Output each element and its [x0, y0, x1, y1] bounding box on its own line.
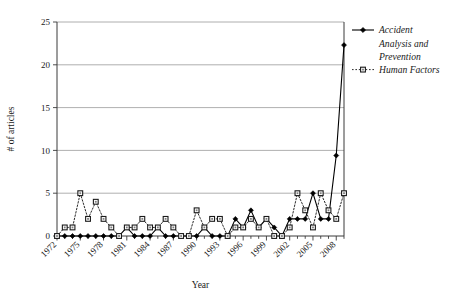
data-point-marker-center — [79, 192, 81, 194]
data-point-marker-center — [172, 227, 174, 229]
line-chart: 0510152025197219751978198119841987199019… — [0, 0, 460, 295]
y-tick-label: 15 — [41, 103, 51, 113]
data-point-marker — [248, 208, 253, 213]
x-tick-label: 2008 — [318, 239, 338, 259]
data-point-marker — [140, 234, 145, 239]
x-tick-label: 2005 — [295, 239, 315, 259]
legend-label-human-factors: Human Factors — [378, 64, 440, 75]
data-point-marker-center — [312, 227, 314, 229]
data-point-marker-center — [335, 218, 337, 220]
y-tick-label: 10 — [41, 146, 51, 156]
data-point-marker — [326, 216, 331, 221]
x-tick-label: 1990 — [178, 239, 198, 259]
data-point-marker-center — [250, 218, 252, 220]
x-tick-label: 1987 — [155, 239, 175, 259]
y-axis-title: # of articles — [6, 106, 16, 151]
data-point-marker-center — [126, 227, 128, 229]
series-line-1 — [57, 193, 344, 236]
legend-label-accident: Prevention — [378, 51, 421, 62]
data-point-marker — [62, 234, 67, 239]
y-tick-label: 5 — [46, 188, 51, 198]
legend-label-accident: Analysis and — [378, 38, 429, 49]
data-point-marker-center — [227, 235, 229, 237]
data-point-marker-center — [72, 227, 74, 229]
data-point-marker-center — [95, 201, 97, 203]
data-point-marker — [93, 234, 98, 239]
data-point-marker — [171, 234, 176, 239]
data-point-marker-center — [134, 227, 136, 229]
x-tick-label: 1984 — [132, 239, 152, 259]
data-point-marker — [342, 43, 347, 48]
data-point-marker — [295, 216, 300, 221]
legend-label-accident: Accident — [378, 24, 413, 35]
data-point-marker — [109, 234, 114, 239]
y-tick-label: 25 — [41, 17, 51, 27]
x-tick-label: 2002 — [271, 239, 291, 259]
data-point-marker — [78, 234, 83, 239]
data-point-marker-center — [103, 218, 105, 220]
data-point-marker-center — [328, 209, 330, 211]
data-point-marker-center — [235, 227, 237, 229]
x-tick-label: 1981 — [108, 239, 128, 259]
data-point-marker-center — [266, 218, 268, 220]
legend-marker-diamond — [360, 27, 365, 32]
data-point-marker-center — [87, 218, 89, 220]
data-point-marker-center — [273, 235, 275, 237]
x-tick-label: 1978 — [85, 239, 105, 259]
data-point-marker — [310, 191, 315, 196]
data-point-marker-center — [258, 227, 260, 229]
series-line-0 — [57, 45, 344, 236]
data-point-marker-center — [141, 218, 143, 220]
x-tick-label: 1996 — [225, 239, 245, 259]
data-point-marker — [318, 216, 323, 221]
data-point-marker-center — [157, 227, 159, 229]
x-tick-label: 1993 — [202, 239, 222, 259]
x-tick-label: 1972 — [39, 239, 59, 259]
legend-marker-square-center — [362, 69, 364, 71]
data-point-marker-center — [297, 192, 299, 194]
chart-container: 0510152025197219751978198119841987199019… — [0, 0, 460, 295]
data-point-marker — [101, 234, 106, 239]
data-point-marker-center — [110, 227, 112, 229]
data-point-marker-center — [289, 227, 291, 229]
data-point-marker — [217, 234, 222, 239]
data-point-marker-center — [165, 218, 167, 220]
x-tick-label: 1999 — [248, 239, 268, 259]
data-point-marker-center — [196, 209, 198, 211]
data-point-marker-center — [149, 227, 151, 229]
x-axis-title: Year — [192, 280, 210, 290]
data-point-marker — [70, 234, 75, 239]
data-point-marker — [303, 216, 308, 221]
data-point-marker-center — [64, 227, 66, 229]
data-point-marker-center — [211, 218, 213, 220]
x-tick-label: 1975 — [62, 239, 82, 259]
data-point-marker-center — [180, 235, 182, 237]
data-point-marker — [86, 234, 91, 239]
data-point-marker-center — [304, 209, 306, 211]
data-point-marker-center — [118, 235, 120, 237]
y-tick-label: 20 — [41, 60, 51, 70]
data-point-marker — [334, 153, 339, 158]
data-point-marker-center — [188, 235, 190, 237]
data-point-marker-center — [281, 235, 283, 237]
data-point-marker-center — [203, 227, 205, 229]
data-point-marker-center — [320, 192, 322, 194]
data-point-marker-center — [242, 227, 244, 229]
data-point-marker-center — [343, 192, 345, 194]
data-point-marker-center — [56, 235, 58, 237]
data-point-marker-center — [219, 218, 221, 220]
